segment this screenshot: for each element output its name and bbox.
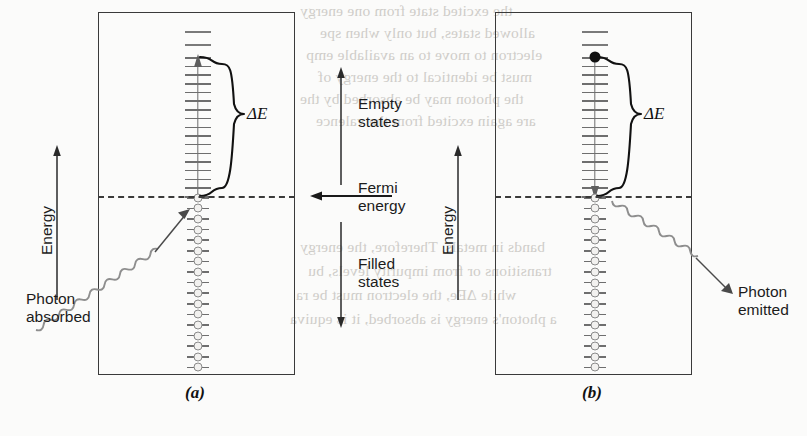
figure-canvas: the excited state from one energy allowe… (0, 0, 807, 436)
photon-emitted-wave (0, 0, 807, 436)
photon-emitted-label: Photon emitted (738, 283, 789, 318)
panel-b-caption: (b) (582, 383, 602, 403)
